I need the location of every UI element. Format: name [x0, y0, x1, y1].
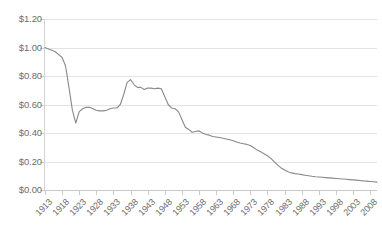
- series-layer: [0, 0, 382, 228]
- line-series-purchasing-power: [45, 48, 377, 183]
- chart-container: $1.20 $1.00 $0.80 $0.60 $0.40 $0.20 $0.0…: [0, 0, 382, 228]
